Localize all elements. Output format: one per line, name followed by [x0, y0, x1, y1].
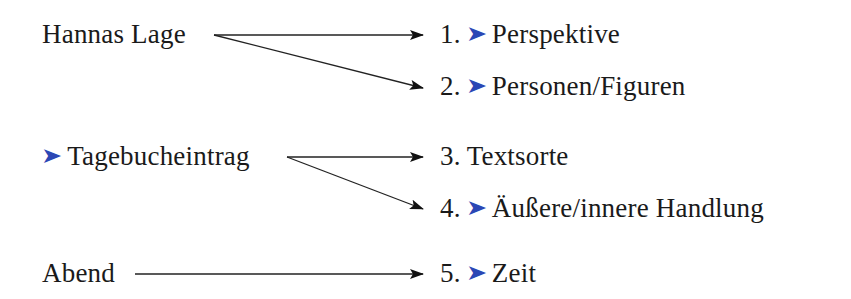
arrow-bullet-icon: ➤: [465, 70, 486, 102]
target-zeit: 5.➤Zeit: [440, 257, 536, 289]
arrow-bullet-icon: ➤: [41, 140, 62, 172]
target-label: Textsorte: [467, 141, 569, 171]
target-label: Zeit: [492, 258, 536, 288]
target-number: 3.: [440, 141, 461, 171]
target-perspektive: 1.➤Perspektive: [440, 18, 620, 50]
target-number: 1.: [440, 19, 461, 49]
source-label: Tagebucheintrag: [67, 141, 250, 171]
target-label: Personen/Figuren: [492, 71, 686, 101]
arrow-bullet-icon: ➤: [465, 257, 486, 289]
target-personen-figuren: 2.➤Personen/Figuren: [440, 70, 686, 102]
source-label: Hannas Lage: [42, 19, 186, 49]
edge-hannas-lage-to-personen: [214, 35, 423, 88]
arrow-bullet-icon: ➤: [465, 192, 486, 224]
source-label: Abend: [42, 258, 115, 288]
source-tagebucheintrag: ➤Tagebucheintrag: [42, 140, 250, 172]
source-hannas-lage: Hannas Lage: [42, 18, 186, 50]
edge-tagebucheintrag-to-handlung: [287, 157, 423, 209]
target-number: 2.: [440, 71, 461, 101]
target-number: 5.: [440, 258, 461, 288]
arrow-bullet-icon: ➤: [465, 18, 486, 50]
target-label: Perspektive: [492, 19, 620, 49]
target-label: Äußere/innere Handlung: [492, 193, 764, 223]
target-number: 4.: [440, 193, 461, 223]
target-textsorte: 3.Textsorte: [440, 140, 569, 172]
source-abend: Abend: [42, 257, 115, 289]
target-handlung: 4.➤Äußere/innere Handlung: [440, 192, 764, 224]
